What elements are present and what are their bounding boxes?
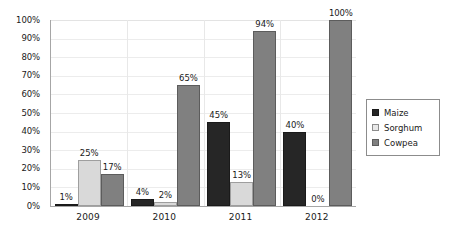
legend-item-maize[interactable]: Maize bbox=[372, 105, 435, 120]
legend-swatch-icon bbox=[372, 139, 379, 146]
bar-sorghum-2010[interactable] bbox=[154, 202, 177, 206]
legend-swatch-icon bbox=[372, 109, 379, 116]
plot-area: 1%25%17%4%2%65%45%13%94%40%0%100% bbox=[50, 20, 356, 207]
y-axis-tick-label: 40% bbox=[21, 127, 40, 136]
bar-chart: 0%10%20%30%40%50%60%70%80%90%100% 1%25%1… bbox=[0, 0, 449, 242]
y-axis-tick-label: 100% bbox=[16, 16, 40, 25]
legend-label: Cowpea bbox=[384, 138, 418, 148]
x-axis-tick-label: 2010 bbox=[126, 212, 202, 223]
y-axis-tick-label: 0% bbox=[27, 202, 40, 211]
bar-value-label: 40% bbox=[276, 121, 313, 130]
bar-group-2012: 40%0%100% bbox=[283, 20, 352, 206]
x-axis-tick-label: 2012 bbox=[279, 212, 355, 223]
legend-item-cowpea[interactable]: Cowpea bbox=[372, 135, 435, 150]
y-axis-tick-label: 70% bbox=[21, 71, 40, 80]
legend-item-sorghum[interactable]: Sorghum bbox=[372, 120, 435, 135]
y-axis-tick-label: 30% bbox=[21, 146, 40, 155]
y-axis: 0%10%20%30%40%50%60%70%80%90%100% bbox=[0, 20, 44, 206]
bar-cowpea-2012[interactable] bbox=[329, 20, 352, 206]
chart-legend: MaizeSorghumCowpea bbox=[366, 99, 440, 156]
y-axis-tick-label: 50% bbox=[21, 109, 40, 118]
bar-cowpea-2009[interactable] bbox=[101, 174, 124, 206]
bar-group-2010: 4%2%65% bbox=[131, 20, 200, 206]
legend-label: Sorghum bbox=[384, 123, 422, 133]
bar-value-label: 17% bbox=[94, 163, 131, 172]
y-axis-tick-label: 60% bbox=[21, 90, 40, 99]
bar-group-2009: 1%25%17% bbox=[55, 20, 124, 206]
bar-sorghum-2011[interactable] bbox=[230, 182, 253, 206]
x-axis: 2009201020112012 bbox=[50, 212, 355, 228]
bar-value-label: 65% bbox=[170, 74, 207, 83]
bar-value-label: 25% bbox=[71, 149, 108, 158]
y-axis-tick-label: 80% bbox=[21, 53, 40, 62]
y-axis-tick-label: 10% bbox=[21, 183, 40, 192]
bar-value-label: 94% bbox=[246, 20, 283, 29]
legend-swatch-icon bbox=[372, 124, 379, 131]
bar-value-label: 45% bbox=[200, 111, 237, 120]
x-axis-tick-label: 2011 bbox=[203, 212, 279, 223]
legend-label: Maize bbox=[384, 108, 409, 118]
bar-maize-2011[interactable] bbox=[207, 122, 230, 206]
category-separator bbox=[280, 20, 281, 206]
bar-cowpea-2011[interactable] bbox=[253, 31, 276, 206]
y-axis-tick-label: 90% bbox=[21, 34, 40, 43]
bar-maize-2009[interactable] bbox=[55, 204, 78, 206]
y-axis-tick-label: 20% bbox=[21, 164, 40, 173]
x-axis-tick-label: 2009 bbox=[50, 212, 126, 223]
bar-group-2011: 45%13%94% bbox=[207, 20, 276, 206]
category-separator bbox=[127, 20, 128, 206]
bar-cowpea-2010[interactable] bbox=[177, 85, 200, 206]
bar-value-label: 100% bbox=[322, 9, 359, 18]
